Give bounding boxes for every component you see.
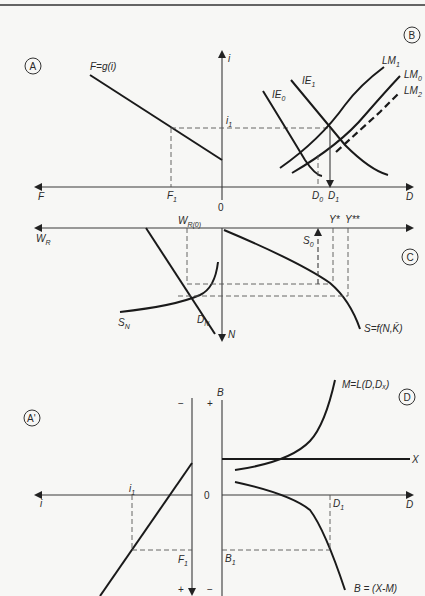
ystar2-label: Y**	[345, 214, 361, 225]
lm2-label: LM2	[404, 85, 422, 98]
f-axis-label: F	[38, 191, 45, 202]
f1-tick: F1	[167, 190, 177, 203]
minus-sign-a: −	[178, 398, 184, 409]
lm1-curve	[280, 67, 384, 168]
badge-d-text: D	[404, 392, 411, 403]
f-curve-label: F=g(i)	[90, 61, 116, 72]
origin-label: 0	[218, 202, 224, 213]
s0-label: S0	[303, 235, 314, 248]
ie0-curve	[263, 91, 322, 176]
import-curve	[235, 380, 335, 470]
a-prime-curve	[100, 463, 192, 596]
f-curve	[90, 75, 222, 160]
wr0-label: WR(0)	[178, 215, 201, 229]
balance-curve	[235, 482, 345, 590]
badge-a-text: A	[30, 61, 37, 72]
i1-tick-a-prime: i1	[129, 483, 135, 496]
i1-tick: i1	[226, 115, 232, 128]
d0-tick: D0	[312, 190, 323, 203]
d1-tick: D1	[328, 190, 339, 203]
plus-sign-d: +	[207, 398, 213, 409]
sn-label: SN	[118, 317, 131, 330]
wr-axis-label: WR	[36, 233, 51, 246]
n-axis-label: N	[228, 329, 236, 340]
f1-tick-a-prime: F1	[178, 554, 188, 567]
badge-a-prime-text: A'	[27, 413, 36, 424]
dn-curve	[146, 228, 215, 334]
production-curve	[224, 230, 360, 329]
lm0-label: LM0	[404, 69, 422, 82]
i-axis-label: i	[228, 53, 231, 64]
ystar-label: Y*	[329, 214, 341, 225]
i-axis-a-prime-label: i	[40, 498, 43, 509]
ie1-label: IE1	[302, 75, 315, 88]
import-label: M=L(D,Dₓ)	[342, 379, 389, 390]
lm1-label: LM1	[382, 55, 400, 68]
balance-label: B = (X-M)	[354, 583, 397, 594]
ie0-label: IE0	[272, 89, 285, 102]
dn-label: DN	[197, 314, 210, 327]
export-label: X	[411, 454, 419, 465]
origin-d-label: 0	[204, 490, 210, 501]
production-label: S=f(N,K̄)	[364, 322, 403, 334]
badge-b-text: B	[409, 30, 416, 41]
d-axis-d-label: D	[406, 499, 413, 510]
sn-curve	[120, 262, 218, 312]
b-axis-label: B	[217, 387, 224, 398]
lm0-curve	[292, 76, 400, 173]
minus-sign-d: −	[207, 584, 213, 595]
badge-c-text: C	[407, 252, 414, 263]
b1-tick-d: B1	[225, 553, 236, 566]
macro-diagram: i F D A F=g(i) i1 F1 B IE0 IE1 LM1 LM0 L…	[0, 0, 425, 596]
d-axis-label: D	[406, 191, 413, 202]
lm2-curve	[336, 92, 400, 152]
plus-sign-a: +	[178, 584, 184, 595]
d1-tick-d: D1	[333, 498, 344, 511]
